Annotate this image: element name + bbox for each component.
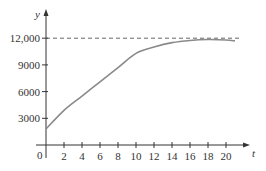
x-axis-arrow-icon — [243, 143, 250, 148]
axes — [36, 9, 250, 158]
x-tick-label: 20 — [221, 150, 233, 162]
x-tick-label: 6 — [97, 150, 103, 162]
y-tick-label: 12,000 — [10, 32, 41, 44]
y-tick-label: 9000 — [18, 59, 41, 71]
x-tick-label: 2 — [61, 150, 67, 162]
y-axis-arrow-icon — [44, 9, 49, 16]
x-tick-label: 12 — [149, 150, 160, 162]
tick-labels: 246810121416182030006000900012,000 — [10, 32, 232, 162]
x-tick-label: 16 — [185, 150, 197, 162]
x-tick-label: 18 — [203, 150, 215, 162]
x-tick-label: 10 — [131, 150, 143, 162]
y-tick-label: 6000 — [18, 86, 41, 98]
x-tick-label: 8 — [115, 150, 121, 162]
data-curve — [46, 40, 235, 129]
x-axis-label: t — [252, 147, 256, 159]
x-tick-label: 14 — [167, 150, 179, 162]
chart: 246810121416182030006000900012,000 y t 0 — [0, 0, 266, 171]
x-tick-label: 4 — [79, 150, 85, 162]
y-tick-label: 3000 — [18, 112, 41, 124]
y-axis-label: y — [34, 8, 40, 20]
origin-label: 0 — [37, 149, 43, 161]
